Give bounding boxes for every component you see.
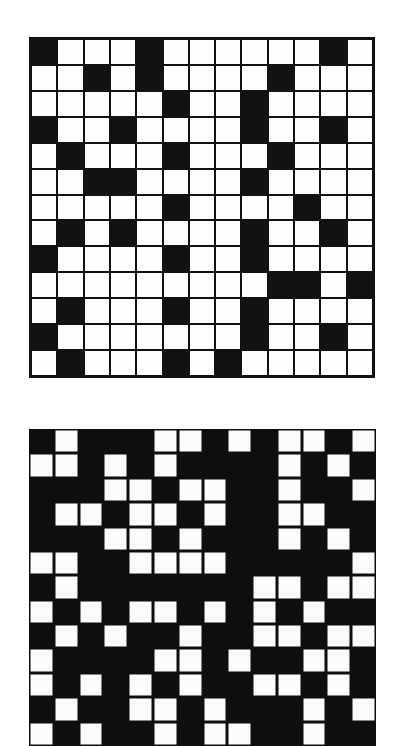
bottom-matrix-cell-r7-c2 (54, 575, 79, 599)
bottom-matrix-cell-r8-c7 (178, 600, 203, 624)
top-matrix-cell-r3-c10 (268, 91, 294, 117)
top-matrix-cell-r11-c11 (294, 298, 320, 324)
top-matrix-cell-r8-c9 (241, 220, 267, 246)
top-matrix-cell-r4-c13 (347, 117, 373, 143)
top-matrix-cell-r11-c1 (31, 298, 57, 324)
bottom-matrix-cell-r9-c1 (29, 624, 54, 648)
top-matrix-cell-r12-c1 (31, 324, 57, 350)
bottom-matrix-cell-r13-c10 (252, 722, 277, 746)
bottom-matrix-cell-r11-c10 (252, 673, 277, 697)
bottom-matrix-cell-r2-c11 (277, 453, 302, 477)
bottom-matrix-cell-r13-c13 (326, 722, 351, 746)
bottom-matrix-cell-r12-c11 (277, 697, 302, 721)
top-matrix-cell-r1-c13 (347, 39, 373, 65)
top-matrix-cell-r8-c13 (347, 220, 373, 246)
top-matrix-cell-r5-c9 (241, 143, 267, 169)
top-matrix-cell-r12-c3 (84, 324, 110, 350)
top-matrix-cell-r12-c11 (294, 324, 320, 350)
bottom-matrix-cell-r8-c10 (252, 600, 277, 624)
top-matrix-cell-r12-c5 (136, 324, 162, 350)
bottom-matrix-cell-r3-c7 (178, 478, 203, 502)
top-matrix-cell-r3-c11 (294, 91, 320, 117)
bottom-matrix-cell-r11-c7 (178, 673, 203, 697)
top-matrix-cell-r3-c3 (84, 91, 110, 117)
top-matrix-cell-r13-c6 (163, 350, 189, 376)
top-matrix-cell-r5-c2 (57, 143, 83, 169)
top-matrix-cell-r11-c2 (57, 298, 83, 324)
bottom-matrix-cell-r8-c6 (153, 600, 178, 624)
bottom-matrix-cell-r5-c9 (227, 527, 252, 551)
top-matrix-cell-r4-c10 (268, 117, 294, 143)
top-matrix-cell-r10-c2 (57, 272, 83, 298)
bottom-matrix-cell-r13-c4 (103, 722, 128, 746)
bottom-matrix-cell-r6-c2 (54, 551, 79, 575)
top-matrix-cell-r8-c5 (136, 220, 162, 246)
bottom-matrix-cell-r1-c8 (203, 429, 228, 453)
bottom-matrix-cell-r7-c4 (103, 575, 128, 599)
bottom-matrix-cell-r1-c5 (128, 429, 153, 453)
bottom-matrix-cell-r1-c9 (227, 429, 252, 453)
bottom-matrix-cell-r8-c14 (351, 600, 376, 624)
bottom-matrix-cell-r2-c10 (252, 453, 277, 477)
bottom-matrix-cell-r8-c5 (128, 600, 153, 624)
bottom-matrix-cell-r3-c14 (351, 478, 376, 502)
bottom-matrix-cell-r2-c13 (326, 453, 351, 477)
bottom-matrix-cell-r7-c5 (128, 575, 153, 599)
top-matrix-cell-r13-c13 (347, 350, 373, 376)
bottom-matrix-cell-r5-c7 (178, 527, 203, 551)
bottom-matrix-cell-r9-c14 (351, 624, 376, 648)
bottom-matrix-cell-r11-c4 (103, 673, 128, 697)
top-matrix-cell-r2-c4 (110, 65, 136, 91)
top-matrix-cell-r3-c13 (347, 91, 373, 117)
bottom-matrix-cell-r9-c10 (252, 624, 277, 648)
bottom-matrix-cell-r6-c10 (252, 551, 277, 575)
bottom-matrix-cell-r9-c12 (302, 624, 327, 648)
top-matrix-cell-r2-c3 (84, 65, 110, 91)
top-matrix-cell-r6-c1 (31, 169, 57, 195)
top-matrix-cell-r9-c8 (215, 246, 241, 272)
top-matrix-cell-r13-c2 (57, 350, 83, 376)
bottom-matrix-cell-r9-c9 (227, 624, 252, 648)
bottom-matrix-figure (29, 429, 376, 746)
bottom-matrix-cell-r7-c11 (277, 575, 302, 599)
bottom-matrix-cell-r7-c1 (29, 575, 54, 599)
bottom-matrix-cell-r10-c11 (277, 648, 302, 672)
bottom-matrix-cell-r1-c2 (54, 429, 79, 453)
bottom-matrix-cell-r7-c7 (178, 575, 203, 599)
bottom-matrix-cell-r8-c13 (326, 600, 351, 624)
top-matrix-cell-r2-c12 (320, 65, 346, 91)
top-matrix-cell-r6-c5 (136, 169, 162, 195)
bottom-matrix-cell-r8-c4 (103, 600, 128, 624)
top-matrix-cell-r12-c7 (189, 324, 215, 350)
top-matrix-cell-r13-c12 (320, 350, 346, 376)
bottom-matrix-cell-r1-c7 (178, 429, 203, 453)
bottom-matrix-cell-r8-c8 (203, 600, 228, 624)
bottom-matrix-cell-r4-c1 (29, 502, 54, 526)
bottom-matrix-cell-r2-c5 (128, 453, 153, 477)
top-matrix-cell-r6-c7 (189, 169, 215, 195)
bottom-matrix-cell-r2-c4 (103, 453, 128, 477)
top-matrix-cell-r7-c13 (347, 195, 373, 221)
bottom-matrix-cell-r13-c6 (153, 722, 178, 746)
bottom-matrix-cell-r9-c11 (277, 624, 302, 648)
top-matrix-cell-r5-c10 (268, 143, 294, 169)
top-matrix-cell-r1-c1 (31, 39, 57, 65)
bottom-matrix-cell-r12-c14 (351, 697, 376, 721)
top-matrix-cell-r11-c4 (110, 298, 136, 324)
top-matrix-cell-r10-c11 (294, 272, 320, 298)
bottom-matrix-cell-r5-c10 (252, 527, 277, 551)
bottom-matrix-cell-r7-c12 (302, 575, 327, 599)
bottom-matrix-cell-r8-c2 (54, 600, 79, 624)
top-matrix-cell-r13-c4 (110, 350, 136, 376)
bottom-matrix-cell-r13-c3 (79, 722, 104, 746)
bottom-matrix-cell-r1-c13 (326, 429, 351, 453)
top-matrix-cell-r10-c4 (110, 272, 136, 298)
top-matrix-cell-r1-c7 (189, 39, 215, 65)
top-matrix-cell-r2-c5 (136, 65, 162, 91)
bottom-matrix-cell-r10-c14 (351, 648, 376, 672)
top-matrix-cell-r4-c5 (136, 117, 162, 143)
top-matrix-cell-r1-c10 (268, 39, 294, 65)
bottom-matrix-cell-r1-c12 (302, 429, 327, 453)
bottom-matrix-cell-r9-c8 (203, 624, 228, 648)
top-matrix-cell-r8-c11 (294, 220, 320, 246)
